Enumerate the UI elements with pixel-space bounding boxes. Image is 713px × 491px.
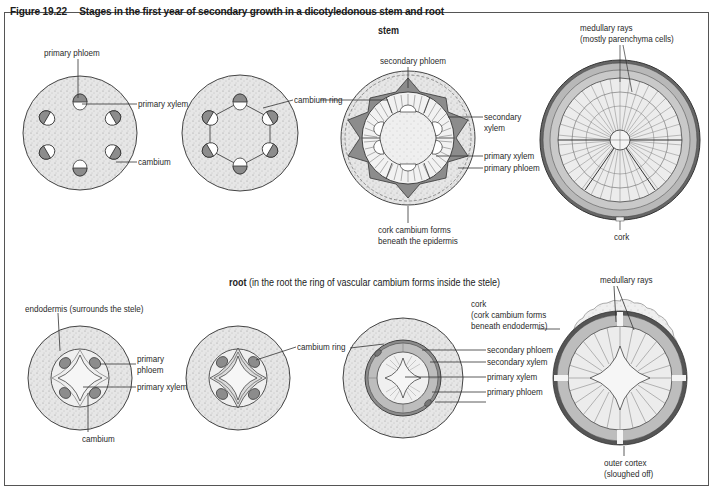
label-root-cork-3: beneath endodermis): [471, 320, 547, 331]
root-section-heading: root (in the root the ring of vascular c…: [229, 277, 500, 288]
label-root-secondary-phloem: secondary phloem: [487, 344, 553, 355]
stem-stage-4-diagram: [540, 45, 700, 230]
label-root-primary-xylem: primary xylem: [137, 381, 187, 392]
label-root-cambium: cambium: [82, 433, 115, 444]
label-root-outer-cortex-1: outer cortex: [604, 457, 647, 468]
label-stem-secondary-xylem-2: xylem: [484, 122, 505, 133]
label-stem-cork: cork: [614, 231, 629, 242]
label-stem-cork-cambium-1: cork cambium forms: [378, 224, 451, 235]
label-root-secondary-xylem: secondary xylem: [487, 356, 548, 367]
stem-stage-3-diagram: [320, 67, 483, 223]
label-root-cork-1: cork: [471, 298, 486, 309]
label-stem-secondary-xylem-1: secondary: [484, 111, 521, 122]
label-root-primary-phloem-2: phloem: [137, 364, 163, 375]
stem-stage-1-diagram: [23, 59, 137, 190]
label-stem-primary-phloem-3: primary phloem: [484, 162, 540, 173]
label-root-primary-xylem-3: primary xylem: [487, 371, 537, 382]
root-stage-1-diagram: [28, 313, 136, 432]
label-root-medullary-rays: medullary rays: [600, 274, 653, 285]
label-stem-medullary-rays-2: (mostly parenchyma cells): [580, 33, 674, 44]
root-stage-3-diagram: [343, 318, 486, 438]
label-stem-primary-phloem: primary phloem: [44, 47, 100, 58]
label-stem-cork-cambium-2: beneath the epidermis: [378, 235, 458, 246]
label-stem-primary-xylem-3: primary xylem: [484, 150, 534, 161]
stem-stage-2-diagram: [182, 75, 298, 191]
root-heading-title: root: [229, 277, 247, 288]
root-stage-4-diagram: [538, 286, 687, 456]
label-root-cambium-ring: cambium ring: [297, 341, 345, 352]
label-root-primary-phloem-3: primary phloem: [487, 386, 543, 397]
label-stem-medullary-rays-1: medullary rays: [580, 22, 633, 33]
stem-section-heading: stem: [378, 25, 399, 36]
root-heading-note: (in the root the ring of vascular cambiu…: [249, 277, 500, 288]
label-stem-cambium-ring: cambium ring: [294, 94, 342, 105]
label-stem-secondary-phloem: secondary phloem: [380, 55, 446, 66]
label-root-endodermis: endodermis (surrounds the stele): [25, 303, 143, 314]
label-stem-cambium: cambium: [138, 156, 171, 167]
label-root-primary-phloem-1: primary: [137, 353, 164, 364]
root-stage-2-diagram: [186, 326, 296, 430]
label-stem-primary-xylem: primary xylem: [138, 98, 188, 109]
diagram-canvas: [0, 0, 713, 491]
label-root-outer-cortex-2: (sloughed off): [604, 468, 653, 479]
label-root-cork-2: (cork cambium forms: [471, 309, 546, 320]
